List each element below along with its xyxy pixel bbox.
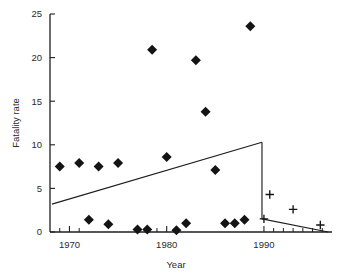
- data-point-diamond: [94, 162, 104, 172]
- x-axis-title: Year: [166, 259, 185, 270]
- data-point-diamond: [230, 218, 240, 228]
- x-tick-label: 1970: [59, 239, 80, 250]
- trend-lines-group: [52, 142, 328, 232]
- data-point-diamond: [191, 55, 201, 65]
- data-point-diamond: [239, 215, 249, 225]
- y-tick-label: 15: [31, 96, 42, 107]
- data-point-plus: [316, 221, 324, 229]
- data-point-diamond: [55, 162, 65, 172]
- data-point-plus: [260, 215, 268, 223]
- data-point-diamond: [74, 158, 84, 168]
- data-point-diamond: [201, 107, 211, 117]
- data-point-diamond: [220, 218, 230, 228]
- tick-labels-group: 0510152025197019801990: [31, 8, 274, 250]
- x-tick-label: 1980: [156, 239, 177, 250]
- y-tick-label: 10: [31, 139, 42, 150]
- chart-figure: 0510152025197019801990 YearFatality rate: [0, 0, 340, 277]
- data-point-diamond: [103, 219, 113, 229]
- data-point-plus: [289, 205, 297, 213]
- data-point-diamond: [142, 224, 152, 234]
- y-axis-title: Fatality rate: [10, 98, 21, 148]
- data-point-plus: [266, 190, 274, 198]
- data-point-diamond: [210, 165, 220, 175]
- data-point-diamond: [147, 45, 157, 55]
- pre-1990-trend: [52, 142, 262, 204]
- axes-group: [50, 14, 332, 232]
- y-tick-label: 0: [37, 226, 42, 237]
- y-tick-label: 25: [31, 8, 42, 19]
- data-point-diamond: [181, 218, 191, 228]
- y-tick-label: 20: [31, 52, 42, 63]
- y-tick-label: 5: [37, 183, 42, 194]
- chart-canvas: 0510152025197019801990 YearFatality rate: [0, 0, 340, 277]
- data-point-diamond: [245, 21, 255, 31]
- tick-marks-group: [50, 14, 322, 232]
- data-point-diamond: [113, 158, 123, 168]
- data-markers-group: [55, 21, 325, 235]
- data-point-diamond: [171, 225, 181, 235]
- data-point-diamond: [84, 215, 94, 225]
- x-tick-label: 1990: [253, 239, 274, 250]
- data-point-diamond: [133, 224, 143, 234]
- data-point-diamond: [162, 152, 172, 162]
